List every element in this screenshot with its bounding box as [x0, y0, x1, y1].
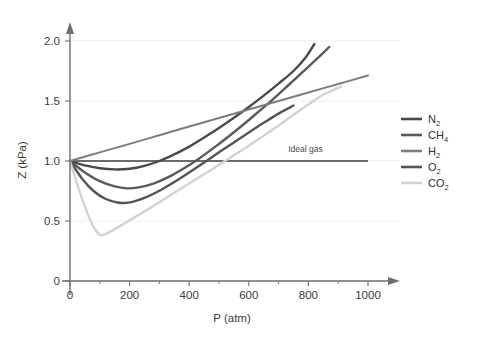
legend-subscript: 2 [437, 167, 441, 176]
x-tick-label-1000: 1000 [355, 289, 381, 301]
y-tick-label-2: 2.0 [44, 35, 60, 47]
y-tick-label-0-5: 0.5 [44, 215, 60, 227]
ideal-gas-label: Ideal gas [288, 144, 323, 154]
y-tick-label-1: 1.0 [44, 155, 60, 167]
x-tick-label-0: 0 [67, 289, 73, 301]
y-axis-title: Z (kPa) [16, 141, 28, 179]
legend-subscript: 2 [436, 151, 440, 160]
legend-subscript: 4 [444, 135, 448, 144]
x-tick-label-200: 200 [120, 289, 139, 301]
compressibility-factor-chart: 02004006008001000 00.51.01.52.0 P (atm)Z… [0, 0, 477, 337]
x-tick-label-600: 600 [239, 289, 258, 301]
x-axis-title: P (atm) [213, 312, 251, 324]
chart-canvas: 02004006008001000 00.51.01.52.0 P (atm)Z… [0, 0, 477, 337]
y-tick-label-1-5: 1.5 [44, 95, 60, 107]
chart-annotations: Ideal gas [288, 144, 323, 154]
x-tick-label-800: 800 [299, 289, 318, 301]
x-tick-label-400: 400 [180, 289, 199, 301]
y-tick-label-0: 0 [54, 275, 60, 287]
legend-subscript: 2 [445, 183, 449, 192]
legend-subscript: 2 [436, 119, 440, 128]
